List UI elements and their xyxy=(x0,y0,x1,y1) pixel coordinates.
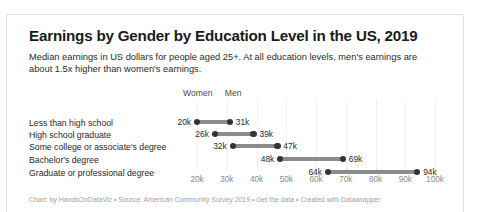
data-point-women[interactable] xyxy=(230,143,236,149)
x-tick-label: 90k xyxy=(396,175,414,184)
value-label-women: 32k xyxy=(187,142,227,151)
row-label: Some college or associate's degree xyxy=(29,142,166,152)
chart-footer: Chart: by HandsOnDataViz • Source: Ameri… xyxy=(29,196,380,203)
chart-card: Earnings by Gender by Education Level in… xyxy=(6,14,464,212)
data-point-men[interactable] xyxy=(227,119,233,125)
row-label: Graduate or professional degree xyxy=(29,168,154,178)
legend-item-women: Women xyxy=(183,88,212,98)
gridline xyxy=(435,99,436,170)
value-label-women: 48k xyxy=(234,155,274,164)
row-label: Less than high school xyxy=(29,118,113,128)
value-label-men: 39k xyxy=(260,130,274,139)
data-point-men[interactable] xyxy=(340,156,346,162)
value-label-men: 47k xyxy=(283,142,297,151)
dumbbell-connector xyxy=(197,120,230,124)
data-point-women[interactable] xyxy=(325,169,331,175)
plot-area: WomenMenLess than high school20k31kHigh … xyxy=(7,15,465,212)
x-tick-label: 50k xyxy=(277,175,295,184)
data-point-men[interactable] xyxy=(250,131,256,137)
data-point-women[interactable] xyxy=(194,119,200,125)
gridline xyxy=(405,99,406,170)
dumbbell-connector xyxy=(280,157,342,161)
dumbbell-connector xyxy=(233,144,278,148)
value-label-men: 31k xyxy=(236,118,250,127)
dumbbell-connector xyxy=(215,132,254,136)
x-tick-label: 20k xyxy=(188,175,206,184)
x-tick-label: 40k xyxy=(248,175,266,184)
value-label-men: 69k xyxy=(349,155,363,164)
dumbbell-connector xyxy=(328,170,417,174)
data-point-women[interactable] xyxy=(212,131,218,137)
x-tick-label: 30k xyxy=(218,175,236,184)
x-tick-label: 100k xyxy=(424,175,446,184)
gridline xyxy=(376,99,377,170)
data-point-women[interactable] xyxy=(277,156,283,162)
x-tick-label: 80k xyxy=(367,175,385,184)
data-point-men[interactable] xyxy=(274,143,280,149)
x-tick-label: 60k xyxy=(307,175,325,184)
legend-item-men: Men xyxy=(225,88,242,98)
row-label: High school graduate xyxy=(29,130,111,140)
x-tick-label: 70k xyxy=(337,175,355,184)
chart-screenshot: Earnings by Gender by Education Level in… xyxy=(0,0,486,212)
row-label: Bachelor's degree xyxy=(29,155,99,165)
value-label-women: 26k xyxy=(169,130,209,139)
data-point-men[interactable] xyxy=(414,169,420,175)
value-label-women: 20k xyxy=(151,118,191,127)
